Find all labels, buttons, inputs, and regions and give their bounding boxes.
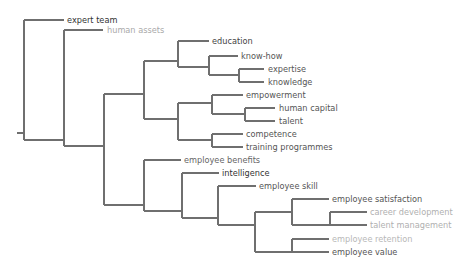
leaf-label: human capital [279,103,338,113]
leaf-label: intelligence [222,168,270,178]
dendrogram-leaf-labels: expert teamhuman assetseducationknow-how… [67,15,454,257]
leaf-label: knowledge [268,77,312,87]
dendrogram-canvas: expert teamhuman assetseducationknow-how… [0,0,457,269]
leaf-label: talent [279,116,304,126]
leaf-label: human assets [107,25,164,35]
leaf-label: empowerment [246,90,306,100]
leaf-label: career development [370,207,454,217]
leaf-label: employee retention [332,234,412,244]
leaf-label: competence [246,129,297,139]
leaf-label: expertise [268,64,306,74]
leaf-label: employee benefits [184,155,260,165]
leaf-label: employee skill [259,181,318,191]
leaf-label: employee satisfaction [332,194,422,204]
dendrogram-branches [17,20,367,252]
leaf-label: employee value [332,247,397,257]
leaf-label: talent management [370,220,452,230]
leaf-label: education [212,36,253,46]
leaf-label: expert team [67,15,117,25]
dendrogram: expert teamhuman assetseducationknow-how… [0,0,457,269]
leaf-label: training programmes [246,142,333,152]
leaf-label: know-how [241,51,283,61]
